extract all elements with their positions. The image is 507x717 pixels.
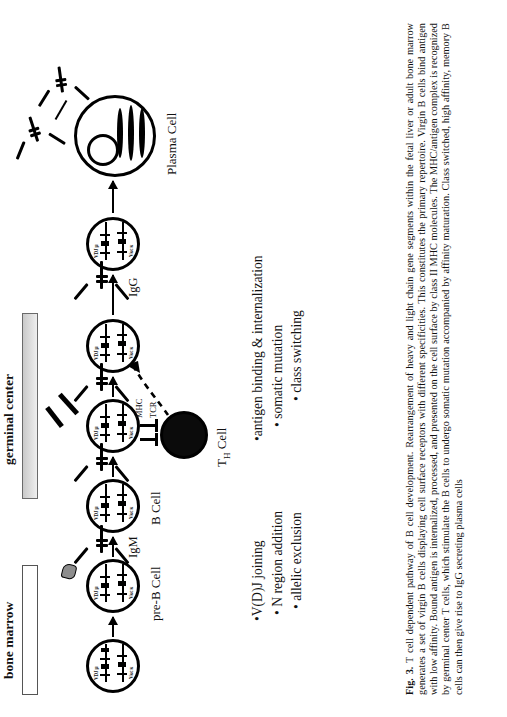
light-chain-gene-label: Vκc κ xyxy=(128,347,134,359)
igm-label: IgM xyxy=(126,536,141,558)
heavy-chain-gene-label: VDJ μ xyxy=(93,427,99,440)
list-item: •V(D)J joining xyxy=(248,511,268,621)
heavy-chain-gene-label: VDJ μ xyxy=(93,667,99,680)
gene-diagram: VDJ μ Vκc κ xyxy=(89,562,137,610)
igg-label: IgG xyxy=(126,278,141,297)
arrow-6 xyxy=(112,181,114,213)
list-item: •antigen binding & internalization xyxy=(248,255,268,441)
list-item-label: allelic exclusion xyxy=(289,512,304,601)
plasma-cell-er-3 xyxy=(139,108,145,158)
figure-number: Fig. 3. xyxy=(404,667,415,695)
proliferation-stroke-2 xyxy=(45,406,64,428)
light-chain-gene-label: Vκc κ xyxy=(128,507,134,519)
germinal-center-bar xyxy=(22,313,38,499)
figure-caption-text: T cell dependent pathway of B cell devel… xyxy=(404,23,464,695)
light-chain-gene-label: Vκc κ xyxy=(128,427,134,439)
list-item: • N region addition xyxy=(268,511,288,621)
light-chain-gene-label: Vκc κ xyxy=(128,245,134,257)
plasma-cell-nucleus xyxy=(87,134,119,166)
list-item-label: V(D)J joining xyxy=(250,540,265,616)
figure-page: bone marrow germinal center VDJ μ Vκc κ xyxy=(0,0,507,717)
plasma-cell-er-2 xyxy=(128,105,134,161)
th-cell-label: TH Cell xyxy=(214,428,232,467)
arrow-2 xyxy=(112,537,114,557)
b-cell-label: B Cell xyxy=(148,491,164,525)
th-cell-label-sub: H xyxy=(222,453,232,460)
list-item: • somatic mutation xyxy=(268,255,288,441)
antigen-particle xyxy=(60,563,77,581)
light-chain-gene-label: Vκc κ xyxy=(128,667,134,679)
secreted-antibody-2 xyxy=(33,60,83,110)
arrow-1 xyxy=(112,617,114,637)
cell-pre-b-2: VDJ μ Vκc κ xyxy=(86,559,140,613)
cell-plasma xyxy=(74,95,156,177)
arrow-3 xyxy=(112,457,114,477)
list-item: • allelic exclusion xyxy=(287,511,307,621)
light-chain-gene-label: Vκc κ xyxy=(128,587,134,599)
list-item: • class switching xyxy=(287,255,307,441)
mhc-receptor-head xyxy=(155,433,158,446)
figure-caption: Fig. 3. T cell dependent pathway of B ce… xyxy=(404,23,465,695)
heavy-chain-gene-label: VDJ μ xyxy=(93,587,99,600)
bone-marrow-events-list: •V(D)J joining • N region addition • all… xyxy=(248,511,307,621)
heavy-chain-gene-label: VDJ μ xyxy=(93,245,99,258)
gene-diagram: VDJ μ Vκc κ xyxy=(89,642,137,690)
figure-canvas: bone marrow germinal center VDJ μ Vκc κ xyxy=(0,0,507,717)
list-item-label: antigen binding & internalization xyxy=(250,255,265,436)
th-cell-label-t: T xyxy=(214,459,229,467)
bone-marrow-label: bone marrow xyxy=(1,602,17,679)
heavy-chain-gene-label: VDJ μ xyxy=(93,507,99,520)
th-cell-label-tail: Cell xyxy=(214,428,229,453)
arrow-4 xyxy=(112,377,114,397)
list-item-label: N region addition xyxy=(270,511,285,607)
plasma-cell-er-1 xyxy=(117,108,123,158)
germinal-center-label: germinal center xyxy=(1,374,17,465)
heavy-chain-gene-label: VDJ μ xyxy=(93,347,99,360)
cell-pre-b-1: VDJ μ Vκc κ xyxy=(86,639,140,693)
bone-marrow-bar xyxy=(22,565,38,695)
surface-igm-antibody xyxy=(74,523,122,567)
plasma-cell-label: Plasma Cell xyxy=(164,113,180,175)
list-item-label: class switching xyxy=(289,310,304,393)
germinal-center-events-list: •antigen binding & internalization • som… xyxy=(248,255,307,441)
pre-b-cell-label: pre-B Cell xyxy=(148,566,164,621)
arrow-5 xyxy=(112,275,114,315)
list-item-label: somatic mutation xyxy=(270,325,285,419)
secreted-antibody-1 xyxy=(4,107,59,162)
